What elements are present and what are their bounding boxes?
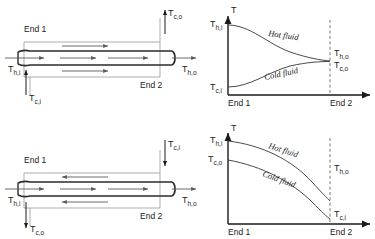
- chart-right-bottom-label: Tc,i: [334, 209, 346, 221]
- end1-label: End 1: [24, 155, 46, 165]
- chart-left-bottom-label: Tc,o: [208, 154, 223, 166]
- cold-outlet-label: Tc,o: [168, 8, 183, 20]
- cold-inlet-port: [160, 140, 165, 173]
- hot-outlet-label: Th,o: [182, 64, 197, 76]
- end1-label: End 1: [24, 24, 46, 34]
- counter-flow-schematic: Th,i Th,o Tc,i Tc,o End 1 End 2: [5, 139, 197, 236]
- chart-left-top-label: Th,i: [210, 135, 222, 147]
- y-axis-label: T: [231, 5, 237, 15]
- hot-inlet-label: Th,i: [8, 195, 20, 207]
- counter-flow-chart: T Hot fluid Cold fluid Th,i Tc,o Th,o Tc…: [208, 123, 370, 237]
- parallel-flow-chart: T Hot fluid Cold fluid Th,i Tc,i Th,o Tc…: [210, 5, 370, 108]
- hot-fluid-label: Hot fluid: [266, 140, 300, 159]
- annulus-flow-arrows: [62, 46, 108, 71]
- cold-outlet-label: Tc,o: [30, 224, 45, 236]
- chart-xtick-right: End 2: [330, 227, 352, 237]
- hot-outlet-label: Th,o: [182, 195, 197, 207]
- cold-fluid-label: Cold fluid: [261, 168, 297, 189]
- annulus-shell: [24, 42, 160, 77]
- hot-fluid-label: Hot fluid: [267, 28, 300, 42]
- chart-right-bottom-label: Tc,o: [334, 60, 349, 72]
- chart-xtick-left: End 1: [228, 98, 250, 108]
- cold-inlet-port: [26, 70, 30, 95]
- cold-fluid-label: Cold fluid: [263, 65, 299, 82]
- cold-fluid-curve: [228, 160, 330, 219]
- heat-exchanger-figure: Th,i Th,o Tc,i Tc,o End 1 End 2 T Hot fl…: [0, 0, 375, 239]
- y-axis-label: T: [231, 123, 237, 133]
- end2-label: End 2: [140, 80, 162, 90]
- parallel-flow-schematic: Th,i Th,o Tc,i Tc,o End 1 End 2: [5, 8, 197, 105]
- chart-xtick-right: End 2: [330, 98, 352, 108]
- chart-xtick-left: End 1: [228, 227, 250, 237]
- hot-inlet-label: Th,i: [8, 64, 20, 76]
- chart-left-bottom-label: Tc,i: [210, 82, 222, 94]
- chart-right-top-label: Th,o: [334, 163, 349, 175]
- cold-inlet-label: Tc,i: [168, 139, 180, 151]
- cold-inlet-label: Tc,i: [29, 93, 41, 105]
- end2-label: End 2: [140, 211, 162, 221]
- cold-outlet-port: [160, 10, 165, 42]
- chart-right-top-label: Th,o: [334, 48, 349, 60]
- chart-left-top-label: Th,i: [210, 19, 222, 31]
- annulus-shell: [24, 173, 160, 208]
- annulus-flow-arrows: [62, 177, 108, 202]
